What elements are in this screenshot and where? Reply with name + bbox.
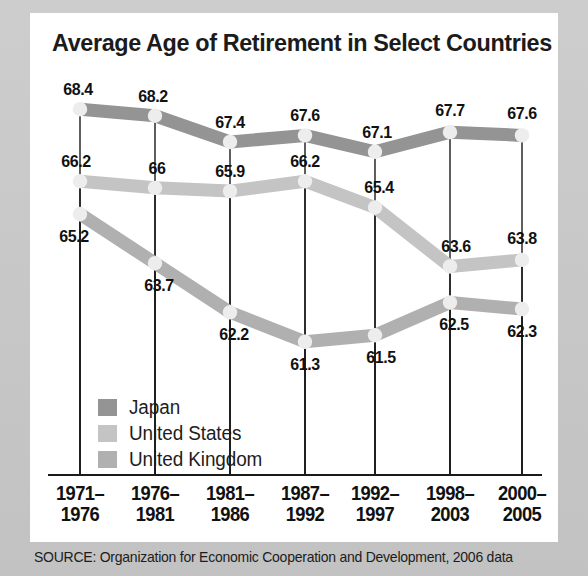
data-point-marker bbox=[368, 200, 382, 214]
data-label: 63.6 bbox=[434, 237, 477, 257]
data-point-marker bbox=[73, 102, 87, 116]
data-label: 63.8 bbox=[500, 229, 543, 249]
data-label: 61.5 bbox=[359, 348, 402, 368]
x-axis-label: 1992–1997 bbox=[336, 483, 414, 525]
data-point-marker bbox=[223, 305, 237, 319]
data-label: 67.4 bbox=[208, 113, 251, 133]
legend-swatch-japan bbox=[98, 399, 117, 416]
data-label: 67.6 bbox=[500, 104, 543, 124]
x-axis-labels: 1971–19761976–19811981–19861987–19921992… bbox=[30, 483, 558, 543]
x-axis-label: 1987–1992 bbox=[266, 483, 344, 525]
data-point-marker bbox=[298, 174, 312, 188]
legend-item-japan: Japan bbox=[98, 394, 328, 420]
x-axis-label: 1981–1986 bbox=[191, 483, 269, 525]
x-axis-label: 2000–2005 bbox=[483, 483, 561, 525]
source-note: SOURCE: Organization for Economic Cooper… bbox=[34, 549, 513, 565]
data-point-marker bbox=[443, 125, 457, 139]
x-axis-label: 1998–2003 bbox=[411, 483, 489, 525]
chart-figure: Average Age of Retirement in Select Coun… bbox=[0, 0, 588, 576]
data-point-marker bbox=[515, 128, 529, 142]
data-point-marker bbox=[368, 145, 382, 159]
data-point-marker bbox=[73, 174, 87, 188]
data-label: 65.2 bbox=[52, 227, 95, 247]
data-point-marker bbox=[515, 253, 529, 267]
data-label: 68.4 bbox=[56, 80, 99, 100]
chart-legend: Japan United States United Kingdom bbox=[98, 394, 328, 472]
data-point-marker bbox=[443, 295, 457, 309]
legend-swatch-united-kingdom bbox=[98, 451, 117, 468]
x-axis-label: 1971–1976 bbox=[41, 483, 119, 525]
data-label: 66 bbox=[135, 159, 178, 179]
data-point-marker bbox=[73, 207, 87, 221]
data-label: 63.7 bbox=[137, 276, 180, 296]
data-label: 66.2 bbox=[283, 152, 326, 172]
data-label: 62.3 bbox=[500, 322, 543, 342]
data-label: 61.3 bbox=[283, 355, 326, 375]
data-point-marker bbox=[223, 184, 237, 198]
data-point-marker bbox=[298, 335, 312, 349]
legend-label-japan: Japan bbox=[129, 396, 180, 419]
data-point-marker bbox=[223, 135, 237, 149]
data-label: 62.5 bbox=[432, 315, 475, 335]
data-label: 67.6 bbox=[283, 106, 326, 126]
data-label: 66.2 bbox=[54, 152, 97, 172]
series-bands-group bbox=[80, 109, 522, 342]
legend-item-united-states: United States bbox=[98, 420, 328, 446]
data-point-marker bbox=[298, 128, 312, 142]
data-label: 62.2 bbox=[212, 325, 255, 345]
x-axis-label: 1976–1981 bbox=[116, 483, 194, 525]
data-label: 65.9 bbox=[208, 162, 251, 182]
legend-item-united-kingdom: United Kingdom bbox=[98, 446, 328, 472]
data-point-marker bbox=[515, 302, 529, 316]
data-point-marker bbox=[443, 259, 457, 273]
data-point-marker bbox=[148, 181, 162, 195]
data-point-marker bbox=[148, 256, 162, 270]
legend-label-united-states: United States bbox=[129, 422, 241, 445]
chart-card: Average Age of Retirement in Select Coun… bbox=[30, 13, 558, 542]
data-label: 65.4 bbox=[357, 178, 400, 198]
data-point-marker bbox=[368, 328, 382, 342]
legend-label-united-kingdom: United Kingdom bbox=[129, 448, 262, 471]
data-label: 68.2 bbox=[131, 87, 174, 107]
legend-swatch-united-states bbox=[98, 425, 117, 442]
data-label: 67.7 bbox=[428, 101, 471, 121]
data-label: 67.1 bbox=[355, 123, 398, 143]
data-point-marker bbox=[148, 109, 162, 123]
